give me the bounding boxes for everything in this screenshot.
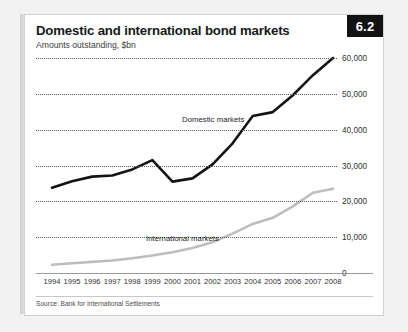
x-axis-tick-label: 1994 (44, 277, 61, 286)
x-axis-tick-label: 2001 (184, 277, 201, 286)
gridline (36, 130, 337, 131)
x-axis-tick-label: 2006 (284, 277, 301, 286)
plot-area: 010,00020,00030,00040,00050,00060,000 Do… (36, 58, 373, 273)
source-divider (36, 296, 373, 297)
x-axis-tick-label: 2002 (204, 277, 221, 286)
y-axis-tick-label: 10,000 (342, 233, 367, 242)
x-axis-tick-label: 1996 (84, 277, 101, 286)
x-axis-tick-label: 2004 (244, 277, 261, 286)
y-axis-tick-label: 50,000 (342, 89, 367, 98)
chart-card: 6.2 Domestic and international bond mark… (24, 14, 384, 316)
chart-number-badge: 6.2 (347, 15, 383, 37)
chart-subtitle: Amounts outstanding, $bn (36, 40, 136, 50)
x-axis-tick-label: 1997 (104, 277, 121, 286)
series-label-international: International markets (146, 234, 219, 243)
x-axis-labels: 1994199519961997199819992000200120022003… (36, 277, 373, 291)
page-title: Domestic and international bond markets (36, 23, 290, 38)
y-axis-tick-label: 60,000 (342, 54, 367, 63)
x-axis-tick-label: 2003 (224, 277, 241, 286)
source-note: Source: Bank for International Settlemen… (36, 300, 160, 307)
x-axis-tick-label: 1995 (64, 277, 81, 286)
x-axis-tick-label: 2000 (164, 277, 181, 286)
gridline (36, 94, 337, 95)
x-axis-line (36, 273, 373, 274)
x-axis-tick-label: 1998 (124, 277, 141, 286)
x-axis-tick-label: 2005 (264, 277, 281, 286)
x-axis-tick-label: 2007 (304, 277, 321, 286)
x-axis-tick-label: 2008 (325, 277, 342, 286)
y-axis-tick-label: 20,000 (342, 197, 367, 206)
x-axis-tick-label: 1999 (144, 277, 161, 286)
series-label-domestic: Domestic markets (182, 115, 244, 124)
gridline (36, 201, 337, 202)
gridline (36, 166, 337, 167)
gridline (36, 58, 337, 59)
page-background: 6.2 Domestic and international bond mark… (0, 0, 408, 332)
series-line-international-markets (52, 189, 333, 265)
y-axis-tick-label: 30,000 (342, 161, 367, 170)
y-axis-tick-label: 40,000 (342, 125, 367, 134)
